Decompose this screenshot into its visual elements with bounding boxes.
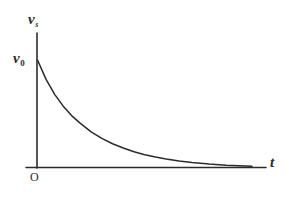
y-axis-label: vs <box>28 12 38 27</box>
y-axis-subscript: s <box>35 20 38 29</box>
y-intercept-subscript: 0 <box>20 58 25 68</box>
origin-label: O <box>30 171 39 183</box>
plot-area <box>0 0 291 197</box>
x-axis-label: t <box>270 155 274 170</box>
y-intercept-symbol: v <box>13 50 20 66</box>
y-axis-symbol: v <box>28 11 35 27</box>
figure-container: vs v0 O t <box>0 0 291 197</box>
y-intercept-label: v0 <box>13 51 24 66</box>
decay-curve <box>38 60 253 166</box>
